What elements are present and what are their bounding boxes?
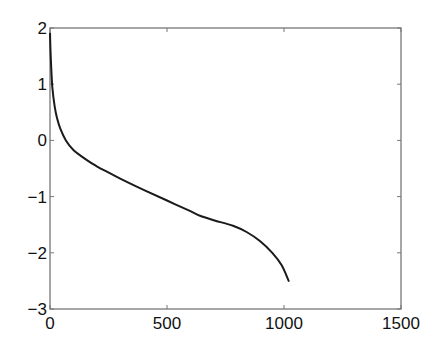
- y-tick-label: 2: [38, 19, 47, 38]
- y-tick-label: −1: [28, 188, 47, 207]
- line-chart: 050010001500−3−2−1012: [0, 0, 444, 350]
- data-line: [50, 34, 289, 281]
- y-tick-label: 0: [38, 131, 47, 150]
- x-tick-label: 500: [153, 314, 181, 333]
- y-tick-label: −3: [28, 300, 47, 319]
- x-tick-label: 1500: [382, 314, 420, 333]
- tick-labels: 050010001500−3−2−1012: [28, 19, 420, 333]
- x-tick-label: 1000: [265, 314, 303, 333]
- y-tick-label: −2: [28, 244, 47, 263]
- y-tick-label: 1: [38, 75, 47, 94]
